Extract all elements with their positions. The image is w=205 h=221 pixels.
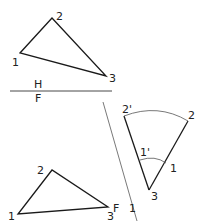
plane-label-h: H <box>34 78 42 91</box>
plane-label-f: F <box>35 92 41 105</box>
label-2-prime: 2' <box>122 103 132 116</box>
label-2: 2 <box>188 109 195 122</box>
diagram-svg: 2 1 3 H F F 1 2 1 3 2' 2 1' 1 3 <box>0 0 205 221</box>
front-view-triangle <box>18 170 108 214</box>
label-1: 1 <box>170 162 177 175</box>
label-3: 3 <box>151 190 158 203</box>
label-1-prime: 1' <box>140 146 150 159</box>
descriptive-geometry-diagram: 2 1 3 H F F 1 2 1 3 2' 2 1' 1 3 <box>0 0 205 221</box>
top-label-2: 2 <box>56 10 63 23</box>
fold-label-1: 1 <box>129 202 136 215</box>
top-label-3: 3 <box>109 72 116 85</box>
revolution-arc-2 <box>124 111 188 121</box>
line-3-2 <box>149 121 188 190</box>
front-label-1: 1 <box>8 210 15 221</box>
top-view-triangle <box>20 18 106 76</box>
front-label-3: 3 <box>107 210 114 221</box>
top-label-1: 1 <box>12 56 19 69</box>
front-label-2: 2 <box>37 164 44 177</box>
